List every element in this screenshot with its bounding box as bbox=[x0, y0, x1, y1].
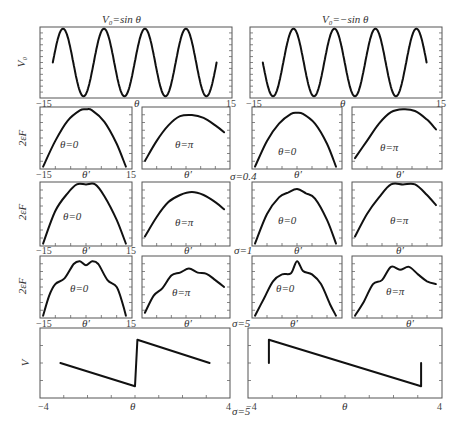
tick-r4-max: 15 bbox=[126, 318, 136, 329]
panel-curve-r3-p2 bbox=[145, 192, 224, 236]
xlabel-r2-p1: θ′ bbox=[82, 168, 90, 180]
sigma-label-5: σ=5 bbox=[232, 317, 250, 329]
tick-r5-right-min: −4 bbox=[246, 401, 257, 412]
panel-frame-r3-p2 bbox=[142, 182, 230, 246]
v-right-curve bbox=[269, 340, 421, 387]
panel-label-r2-p3: θ=0 bbox=[278, 145, 296, 157]
panel-label-r3-p1: θ=0 bbox=[63, 210, 81, 222]
xlabel-r4-p3: θ′ bbox=[290, 317, 298, 329]
panel-label-r4-p3: θ=0 bbox=[276, 282, 294, 294]
sigma-label-1: σ=1 bbox=[234, 244, 252, 256]
panel-label-r4-p2: θ=π bbox=[172, 286, 190, 298]
v0-negsin-curve bbox=[263, 29, 427, 97]
tick-r5-left-max: 4 bbox=[226, 401, 231, 412]
panel-label-r2-p4: θ=π bbox=[380, 141, 398, 153]
xlabel-r4-p4: θ′ bbox=[406, 317, 414, 329]
panel-label-r4-p4: θ=π bbox=[386, 285, 404, 297]
xlabel-r3-p2: θ′ bbox=[184, 244, 192, 256]
panel-curve-r4-p3 bbox=[255, 261, 336, 316]
panel-label-r3-p4: θ=π bbox=[390, 214, 408, 226]
ylabel-2eF-row2: 2εF bbox=[16, 130, 28, 147]
tick-r5-right-max: 4 bbox=[437, 401, 442, 412]
panel-frame-r3-p3 bbox=[252, 182, 342, 246]
panel-label-r2-p2: θ=π bbox=[175, 138, 193, 150]
xlabel-r2-p4: θ′ bbox=[396, 168, 404, 180]
panel-frame-r2-p4 bbox=[352, 107, 442, 169]
tick-r2-max: 15 bbox=[126, 169, 136, 180]
xlabel-r3-p3: θ′ bbox=[294, 244, 302, 256]
tick-row1-right-min: −15 bbox=[246, 98, 262, 109]
xlabel-r4-p2: θ′ bbox=[184, 317, 192, 329]
tick-row1-right-max: 15 bbox=[436, 98, 446, 109]
xlabel-row1-right: θ bbox=[340, 97, 345, 109]
panel-frame-r2-p3 bbox=[252, 107, 342, 169]
xlabel-r4-p1: θ′ bbox=[82, 317, 90, 329]
xlabel-r3-p4: θ′ bbox=[396, 244, 404, 256]
ylabel-2eF-row4: 2εF bbox=[16, 278, 28, 295]
panel-curve-r2-p3 bbox=[255, 113, 336, 167]
panel-curve-r3-p1 bbox=[43, 184, 126, 244]
v-left-frame bbox=[40, 328, 230, 398]
panel-curve-r2-p1 bbox=[43, 109, 126, 167]
ylabel-2eF-row3: 2εF bbox=[16, 204, 28, 221]
panel-frame-r2-p1 bbox=[40, 107, 132, 169]
tick-r5-left-min: −4 bbox=[38, 401, 49, 412]
xlabel-r2-p2: θ′ bbox=[184, 168, 192, 180]
panel-label-r3-p2: θ=π bbox=[175, 216, 193, 228]
xlabel-row1-left: θ bbox=[134, 97, 139, 109]
tick-row1-left-min: −15 bbox=[36, 98, 52, 109]
ylabel-v0: V₀ bbox=[15, 57, 27, 68]
title-v0-negsin: V₀=−sin θ bbox=[322, 13, 368, 25]
sigma-label-0-4: σ=0.4 bbox=[230, 170, 257, 182]
tick-r2-min: −15 bbox=[36, 169, 52, 180]
v-left-curve bbox=[60, 340, 209, 387]
xlabel-r5-right: θ bbox=[342, 400, 347, 412]
panel-frame-r4-p3 bbox=[252, 256, 342, 318]
title-v0-sin: V₀=sin θ bbox=[102, 13, 141, 25]
xlabel-r3-p1: θ′ bbox=[82, 244, 90, 256]
panel-label-r2-p1: θ=0 bbox=[60, 138, 78, 150]
tick-r3-max: 15 bbox=[126, 245, 136, 256]
xlabel-r2-p3: θ′ bbox=[294, 168, 302, 180]
panel-curve-r3-p4 bbox=[355, 183, 436, 236]
tick-r3-min: −15 bbox=[36, 245, 52, 256]
xlabel-r5-left: θ bbox=[130, 400, 135, 412]
panel-label-r3-p3: θ=0 bbox=[278, 214, 296, 226]
tick-r4-min: −15 bbox=[36, 318, 52, 329]
v0-sin-curve bbox=[53, 29, 217, 97]
panel-label-r4-p1: θ=0 bbox=[70, 282, 88, 294]
tick-row1-left-max: 15 bbox=[226, 98, 236, 109]
ylabel-v: V bbox=[19, 360, 31, 367]
